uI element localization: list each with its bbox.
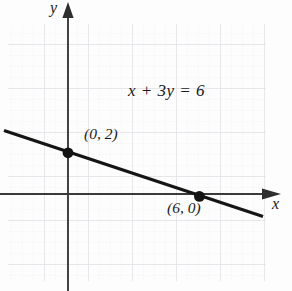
graph-canvas bbox=[0, 0, 292, 291]
point-marker-0-2 bbox=[63, 147, 74, 158]
y-axis-label: y bbox=[50, 0, 57, 16]
point-label-6-0: (6, 0) bbox=[167, 200, 201, 216]
equation-label: x + 3y = 6 bbox=[128, 82, 205, 99]
x-axis-label: x bbox=[272, 196, 279, 212]
coordinate-graph-figure: x + 3y = 6 (0, 2) (6, 0) y x bbox=[0, 0, 292, 291]
grid-layer bbox=[8, 24, 266, 281]
y-axis-arrowhead bbox=[62, 2, 73, 18]
point-label-0-2: (0, 2) bbox=[84, 126, 118, 142]
grid-background bbox=[8, 24, 266, 281]
